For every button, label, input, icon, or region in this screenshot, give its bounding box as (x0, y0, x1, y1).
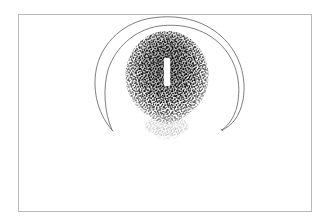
central-slit (164, 58, 170, 86)
figure-root (0, 0, 331, 221)
figure-canvas (0, 0, 331, 221)
